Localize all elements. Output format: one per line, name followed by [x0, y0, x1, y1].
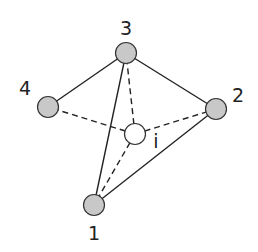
- edge-3-4: [48, 53, 126, 107]
- label-i: i: [153, 130, 158, 152]
- label-2: 2: [232, 84, 244, 106]
- edge-2-1: [94, 109, 216, 205]
- label-4: 4: [19, 77, 31, 99]
- edge-i-4: [48, 107, 135, 134]
- edge-3-2: [126, 53, 216, 109]
- node-3: [116, 43, 137, 64]
- node-i: [125, 124, 146, 145]
- node-1: [84, 195, 105, 216]
- edge-i-1: [94, 134, 135, 205]
- edge-i-2: [135, 109, 216, 134]
- label-1: 1: [88, 222, 100, 244]
- edge-i-3: [126, 53, 135, 134]
- tetrahedron-diagram: 3 4 2 i 1: [0, 0, 258, 252]
- node-4: [38, 97, 59, 118]
- label-3: 3: [120, 17, 132, 39]
- node-2: [206, 99, 227, 120]
